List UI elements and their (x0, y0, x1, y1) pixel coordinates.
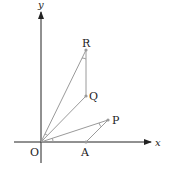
angle-mark-P (99, 123, 102, 127)
x-axis-label: x (155, 137, 161, 148)
point-Q (84, 94, 87, 97)
point-label-R: R (82, 37, 91, 50)
segment-OR (41, 50, 86, 142)
segment-OP (41, 120, 108, 142)
origin-label: O (30, 146, 39, 159)
point-label-A: A (80, 146, 90, 159)
y-axis-label: y (37, 0, 44, 10)
point-label-Q: Q (89, 90, 98, 103)
angle-mark-R (82, 58, 86, 59)
angle-mark-O-2 (45, 134, 48, 135)
point-label-P: P (112, 114, 120, 127)
coordinate-diagram: y x O A P Q R (0, 0, 170, 183)
point-A (84, 140, 87, 143)
diagram-canvas: y x O A P Q R (0, 0, 170, 183)
point-P (106, 118, 109, 121)
angle-mark-O-1 (52, 138, 53, 142)
